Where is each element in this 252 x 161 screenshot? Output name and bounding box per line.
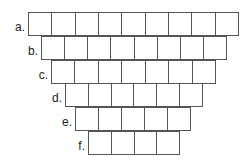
row-label-a: a.: [5, 21, 25, 33]
square-cell: [122, 108, 145, 130]
row-label-b: b.: [18, 45, 38, 57]
inverted-pyramid-diagram: a. b. c. d. e. f.: [0, 0, 252, 161]
square-cell: [111, 37, 134, 59]
row-e-cells: [75, 107, 191, 131]
row-label-e: e.: [52, 116, 72, 128]
square-cell: [157, 84, 180, 106]
square-cell: [52, 13, 75, 35]
row-b: b.: [0, 36, 252, 60]
square-cell: [168, 108, 191, 130]
square-cell: [99, 108, 122, 130]
square-cell: [134, 84, 157, 106]
row-f-cells: [88, 131, 180, 155]
square-cell: [146, 61, 169, 83]
square-cell: [76, 108, 99, 130]
square-cell: [66, 84, 89, 106]
row-d: d.: [0, 83, 252, 107]
square-cell: [204, 37, 227, 59]
square-cell: [99, 13, 122, 35]
row-label-c: c.: [28, 69, 48, 81]
square-cell: [99, 61, 122, 83]
square-cell: [52, 61, 75, 83]
square-cell: [112, 84, 135, 106]
square-cell: [169, 13, 192, 35]
square-cell: [122, 13, 145, 35]
row-b-cells: [41, 36, 227, 60]
square-cell: [145, 108, 168, 130]
square-cell: [89, 132, 112, 154]
square-cell: [181, 37, 204, 59]
square-cell: [65, 37, 88, 59]
square-cell: [180, 84, 203, 106]
square-cell: [193, 61, 216, 83]
square-cell: [157, 132, 180, 154]
square-cell: [29, 13, 52, 35]
square-cell: [158, 37, 181, 59]
row-f: f.: [0, 131, 252, 155]
square-cell: [135, 132, 158, 154]
square-cell: [112, 132, 135, 154]
row-c-cells: [51, 60, 216, 84]
square-cell: [89, 84, 112, 106]
row-d-cells: [65, 83, 203, 107]
square-cell: [122, 61, 145, 83]
square-cell: [146, 13, 169, 35]
row-a: a.: [0, 12, 252, 36]
square-cell: [75, 61, 98, 83]
row-label-f: f.: [65, 140, 85, 152]
square-cell: [192, 13, 215, 35]
square-cell: [88, 37, 111, 59]
row-e: e.: [0, 107, 252, 131]
square-cell: [135, 37, 158, 59]
square-cell: [76, 13, 99, 35]
square-cell: [216, 13, 239, 35]
square-cell: [42, 37, 65, 59]
row-a-cells: [28, 12, 239, 36]
row-c: c.: [0, 60, 252, 84]
row-label-d: d.: [42, 92, 62, 104]
square-cell: [169, 61, 192, 83]
